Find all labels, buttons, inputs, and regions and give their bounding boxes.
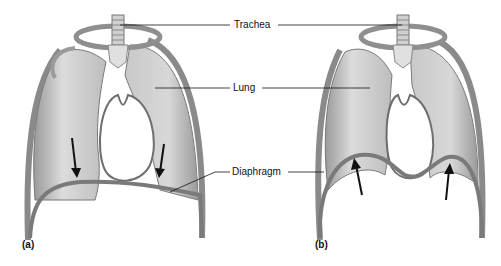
thorax-diagram (0, 0, 501, 266)
panel-b-thorax (318, 15, 482, 240)
panel-b-label: (b) (315, 239, 328, 250)
sternum-a (108, 45, 128, 68)
trachea-label: Trachea (234, 19, 270, 31)
lung-label: Lung (233, 82, 255, 94)
panel-a-label: (a) (22, 239, 34, 250)
sternum-b (393, 45, 413, 68)
diaphragm-label: Diaphragm (232, 166, 281, 178)
panel-a-thorax (27, 15, 202, 240)
